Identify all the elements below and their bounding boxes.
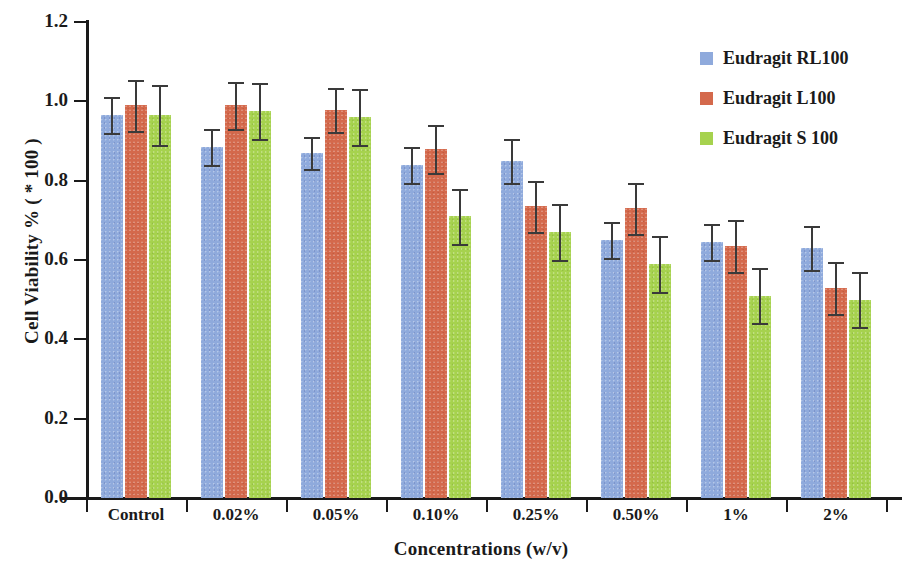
error-bar-stem [735,220,737,272]
y-axis-tick-label: 0.0 [0,486,68,508]
error-bar-cap-top [328,88,344,90]
y-axis-tick-label: 0.2 [0,407,68,429]
error-bar-stem [711,224,713,260]
y-axis-tick-label: 1.0 [0,89,68,111]
error-bar-cap-bottom [828,314,844,316]
bar [325,110,347,498]
error-bar-cap-top [252,83,268,85]
error-bar-stem [859,272,861,328]
error-bar-cap-bottom [304,169,320,171]
error-bar-cap-bottom [728,272,744,274]
bar [425,149,447,498]
error-bar-cap-bottom [752,323,768,325]
bar [825,288,847,498]
error-bar-cap-top [104,97,120,99]
error-bar-cap-bottom [252,139,268,141]
error-bar-cap-top [428,125,444,127]
error-bar-stem [659,236,661,292]
error-bar-stem [335,88,337,132]
bar [401,165,423,498]
error-bar-cap-bottom [504,183,520,185]
error-bar-cap-bottom [228,129,244,131]
error-bar-cap-top [652,236,668,238]
error-bar-cap-bottom [804,270,820,272]
error-bar-cap-bottom [428,173,444,175]
bar-chart: Cell Viability % ( * 100 ) Concentration… [0,0,902,567]
error-bar-cap-top [828,262,844,264]
legend-item-label: Eudragit RL100 [723,48,849,69]
legend-item[interactable]: Eudragit L100 [700,78,849,118]
bar [525,206,547,498]
error-bar-stem [135,80,137,132]
bar [101,115,123,498]
legend-item-label: Eudragit S 100 [723,128,838,149]
error-bar-cap-top [628,183,644,185]
y-axis-tick-label: 0.8 [0,169,68,191]
y-axis-tick-label: 0.4 [0,327,68,349]
error-bar-cap-top [704,224,720,226]
error-bar-cap-bottom [604,258,620,260]
bar [649,264,671,498]
error-bar-cap-top [728,220,744,222]
bar [201,147,223,498]
bar [225,105,247,498]
error-bar-cap-top [804,226,820,228]
error-bar-stem [835,262,837,314]
x-axis-tick-label: 2% [776,505,896,525]
error-bar-stem [759,268,761,324]
error-bar-stem [635,183,637,235]
bar [449,216,471,498]
error-bar-cap-top [752,268,768,270]
error-bar-cap-top [604,222,620,224]
error-bar-cap-top [204,129,220,131]
error-bar-stem [111,97,113,133]
error-bar-stem [435,125,437,173]
error-bar-cap-bottom [128,131,144,133]
bar [301,153,323,498]
error-bar-stem [811,226,813,270]
error-bar-cap-bottom [328,132,344,134]
y-axis-tick-label: 1.2 [0,10,68,32]
error-bar-stem [459,189,461,245]
error-bar-cap-top [504,139,520,141]
error-bar-cap-top [528,181,544,183]
error-bar-stem [611,222,613,258]
error-bar-stem [535,181,537,233]
x-axis-title: Concentrations (w/v) [60,538,902,560]
bar [725,246,747,498]
error-bar-stem [359,89,361,145]
error-bar-cap-bottom [152,145,168,147]
error-bar-cap-top [852,272,868,274]
error-bar-cap-top [452,189,468,191]
error-bar-cap-top [128,80,144,82]
legend-item[interactable]: Eudragit S 100 [700,118,849,158]
error-bar-stem [411,147,413,183]
error-bar-cap-top [228,82,244,84]
error-bar-stem [559,204,561,260]
bar [749,296,771,498]
legend-item-label: Eudragit L100 [723,88,836,109]
bar [701,242,723,498]
error-bar-cap-bottom [552,260,568,262]
legend-swatch-icon [700,52,713,65]
error-bar-cap-bottom [452,244,468,246]
error-bar-stem [511,139,513,183]
bar [349,117,371,498]
error-bar-cap-bottom [652,292,668,294]
error-bar-cap-bottom [104,133,120,135]
legend-swatch-icon [700,92,713,105]
bar [625,208,647,498]
error-bar-cap-bottom [704,260,720,262]
error-bar-stem [259,83,261,139]
error-bar-cap-top [304,137,320,139]
bar [501,161,523,498]
legend-item[interactable]: Eudragit RL100 [700,38,849,78]
y-axis-tick-label: 0.6 [0,248,68,270]
error-bar-cap-bottom [852,327,868,329]
error-bar-cap-top [404,147,420,149]
bar [149,115,171,498]
error-bar-cap-bottom [404,183,420,185]
error-bar-cap-bottom [628,234,644,236]
bar [249,111,271,498]
legend-swatch-icon [700,132,713,145]
